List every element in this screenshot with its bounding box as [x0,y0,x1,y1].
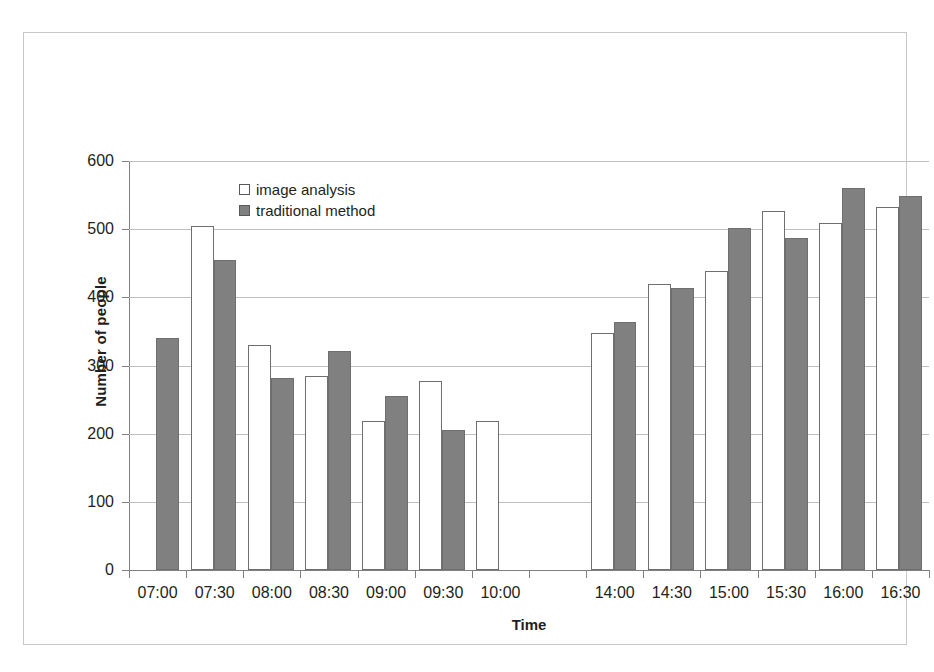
bar-09:30-traditional-method [442,430,465,570]
bar-08:30-image-analysis [305,376,328,570]
chart-page: Number of people 0100200300400500600 07:… [0,0,934,672]
filled-square-swatch-icon [239,205,250,216]
gridline-600 [129,161,929,162]
plot-area [129,161,929,570]
x-tick [129,570,130,578]
bar-08:00-image-analysis [248,345,271,570]
y-tick-0 [122,570,129,571]
y-tick-label: 100 [66,494,114,510]
y-tick-300 [122,366,129,367]
bar-16:30-image-analysis [876,207,899,570]
x-tick [300,570,301,578]
x-tick-label: 10:00 [465,584,535,602]
bar-07:30-traditional-method [214,260,237,570]
x-tick-label: 16:30 [865,584,934,602]
x-tick [243,570,244,578]
bar-09:00-image-analysis [362,421,385,570]
bar-08:00-traditional-method [271,378,294,570]
legend-label: traditional method [256,200,375,221]
bar-14:00-traditional-method [614,322,637,570]
legend-item-traditional-method: traditional method [239,200,375,221]
y-tick-100 [122,502,129,503]
x-tick [415,570,416,578]
gridline-400 [129,297,929,298]
y-tick-label: 600 [66,153,114,169]
bar-16:00-traditional-method [842,188,865,570]
bar-07:30-image-analysis [191,226,214,570]
bar-07:00-traditional-method [156,338,179,570]
x-axis-title: Time [129,616,929,633]
y-axis-tick-labels: 0100200300400500600 [66,33,114,672]
hollow-square-swatch-icon [239,184,250,195]
x-tick [586,570,587,578]
x-tick [472,570,473,578]
legend-item-image-analysis: image analysis [239,179,375,200]
y-tick-400 [122,297,129,298]
bar-15:00-image-analysis [705,271,728,570]
bar-08:30-traditional-method [328,351,351,570]
bar-15:00-traditional-method [728,228,751,570]
bar-09:30-image-analysis [419,381,442,571]
figure-frame: Number of people 0100200300400500600 07:… [23,32,907,645]
y-tick-label: 500 [66,221,114,237]
y-tick-label: 400 [66,289,114,305]
bar-16:00-image-analysis [819,223,842,570]
y-tick-label: 200 [66,426,114,442]
bar-14:00-image-analysis [591,333,614,570]
y-tick-200 [122,434,129,435]
bar-10:00-image-analysis [476,421,499,570]
x-tick [929,570,930,578]
bar-16:30-traditional-method [899,196,922,570]
bar-09:00-traditional-method [385,396,408,571]
bar-15:30-image-analysis [762,211,785,570]
legend-label: image analysis [256,179,355,200]
x-tick [529,570,530,578]
y-tick-label: 300 [66,358,114,374]
y-tick-600 [122,161,129,162]
bar-14:30-image-analysis [648,284,671,570]
x-tick [815,570,816,578]
y-tick-label: 0 [66,562,114,578]
x-tick [643,570,644,578]
x-tick [758,570,759,578]
gridline-500 [129,229,929,230]
bar-14:30-traditional-method [671,288,694,570]
x-tick [872,570,873,578]
bar-15:30-traditional-method [785,238,808,570]
y-tick-500 [122,229,129,230]
x-tick [186,570,187,578]
chart-legend: image analysis traditional method [239,179,375,221]
x-tick [700,570,701,578]
x-tick [358,570,359,578]
